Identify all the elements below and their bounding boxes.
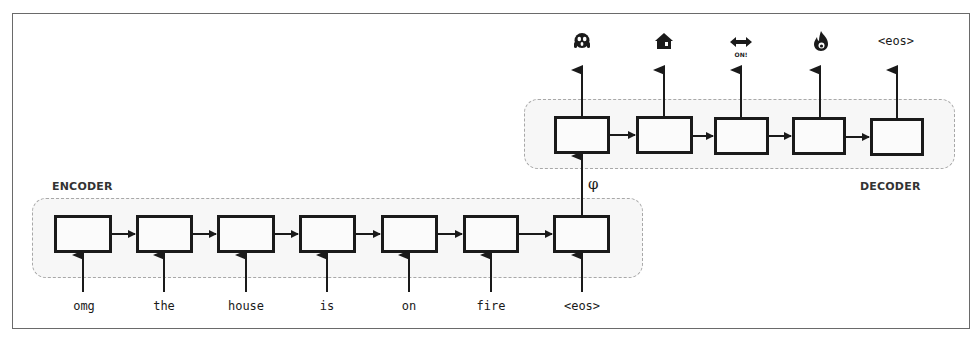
input-token: <eos> [564,299,600,313]
arrows-layer [0,0,977,339]
input-token: fire [477,299,506,313]
input-token: the [153,299,175,313]
on-arrow-text: ON! [730,51,752,58]
input-token: on [402,299,416,313]
house-icon [655,33,673,53]
input-token: omg [73,299,95,313]
context-vector-label: φ [588,175,599,193]
input-token: house [228,299,264,313]
fire-icon [814,31,828,55]
eos-output-token: <eos> [878,34,914,48]
input-token: is [320,299,334,313]
on-arrow-icon: ON! [730,32,752,58]
scream-face-icon [573,32,591,54]
